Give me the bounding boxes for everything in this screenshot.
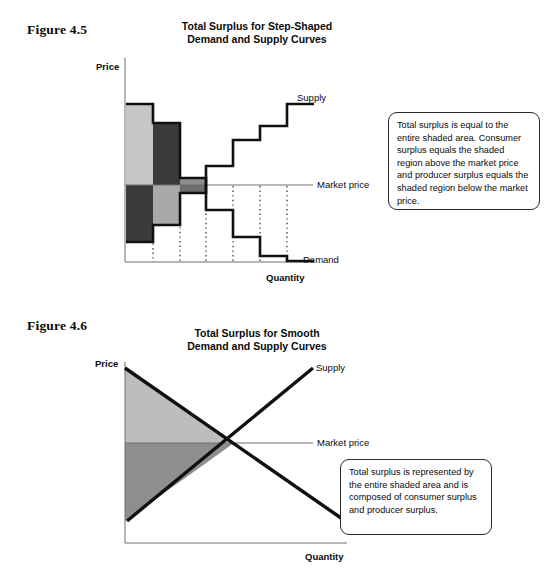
figure-4-6-callout: Total surplus is represented by the enti… — [340, 459, 492, 535]
textbook-figure-page: Figure 4.5 Total Surplus for Step-Shaped… — [0, 0, 549, 585]
